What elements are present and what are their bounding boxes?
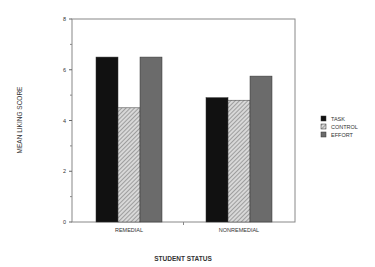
y-tick-label: 0 [63,219,66,225]
bar-task-nonremedial [206,98,228,222]
y-tick-label: 6 [63,67,66,73]
bar-task-remedial [96,57,118,222]
legend-swatch [321,132,326,137]
bar-effort-nonremedial [250,76,272,222]
bars [96,57,272,222]
x-axis-categories: REMEDIALNONREMEDIAL [115,227,259,233]
y-tick-label: 2 [63,168,66,174]
legend-label: TASK [331,116,345,122]
legend: TASKCONTROLEFFORT [321,116,358,138]
bar-effort-remedial [140,57,162,222]
x-axis-label: STUDENT STATUS [154,255,212,262]
bar-control-nonremedial [228,100,250,222]
legend-label: CONTROL [331,124,358,130]
y-axis-label: MEAN LIKING SCORE [16,86,23,153]
y-tick-label: 8 [63,16,66,22]
x-category-label: NONREMEDIAL [219,227,259,233]
legend-swatch [321,124,326,129]
bar-chart: 02468 REMEDIALNONREMEDIAL TASKCONTROLEFF… [0,0,375,267]
legend-swatch [321,116,326,121]
bar-control-remedial [118,108,140,222]
x-category-label: REMEDIAL [115,227,143,233]
y-tick-label: 4 [63,118,66,124]
legend-label: EFFORT [331,132,354,138]
